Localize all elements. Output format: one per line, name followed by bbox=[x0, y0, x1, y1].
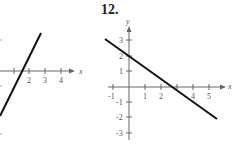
right-y-tick-label: -3 bbox=[116, 129, 123, 138]
right-x-label: x bbox=[227, 82, 232, 91]
right-y-tick-label: -1 bbox=[116, 98, 123, 107]
left-tick-label: 4 bbox=[59, 76, 63, 85]
right-y-tick-label: 3 bbox=[119, 36, 123, 45]
left-x-arrow-icon bbox=[69, 69, 75, 74]
right-graph-line bbox=[105, 39, 217, 119]
right-y-arrow-icon bbox=[127, 26, 132, 32]
right-y-tick-label: 2 bbox=[119, 52, 123, 61]
right-x-tick-label: 2 bbox=[159, 92, 163, 101]
right-graph: 12. y x -1 1 2 4 5 3 2 1 -1 -2 -3 bbox=[101, 2, 232, 140]
right-y-tick-label: -2 bbox=[116, 113, 123, 122]
left-tick-label: 3 bbox=[43, 76, 47, 85]
right-y-tick-label: 1 bbox=[119, 67, 123, 76]
problem-number: 12. bbox=[101, 2, 119, 17]
figure: x 2 3 4 12. y x -1 1 2 4 bbox=[0, 0, 236, 149]
right-y-label: y bbox=[125, 17, 130, 26]
left-graph: x 2 3 4 bbox=[0, 33, 83, 134]
right-x-tick-label: -1 bbox=[108, 92, 115, 101]
right-x-tick-label: 1 bbox=[143, 92, 147, 101]
left-x-label: x bbox=[78, 67, 83, 76]
right-x-tick-label: 5 bbox=[207, 92, 211, 101]
left-tick-label: 2 bbox=[27, 76, 31, 85]
right-x-arrow-icon bbox=[220, 85, 226, 90]
left-graph-line bbox=[0, 33, 41, 116]
